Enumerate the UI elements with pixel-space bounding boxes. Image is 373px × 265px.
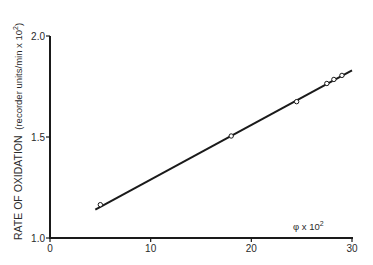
chart: 1.01.52.00102030 RATE OF OXIDATION (reco… (0, 0, 373, 265)
y-axis-title: RATE OF OXIDATION (recorder units/min x … (12, 23, 24, 240)
data-point-marker (340, 73, 344, 77)
x-tick-label: 30 (346, 243, 358, 254)
x-tick-label: 0 (47, 243, 53, 254)
fit-line (95, 70, 352, 209)
data-point-marker (229, 134, 233, 138)
data-points (98, 73, 344, 207)
x-tick-label: 10 (145, 243, 157, 254)
data-point-marker (294, 99, 298, 103)
x-tick-label: 20 (246, 243, 258, 254)
data-point-marker (332, 77, 336, 81)
data-point-marker (98, 202, 102, 206)
y-tick-label: 2.0 (31, 31, 45, 42)
y-tick-label: 1.0 (31, 233, 45, 244)
data-point-marker (325, 81, 329, 85)
axes (46, 36, 353, 242)
x-axis-title: φ x 102 (293, 220, 324, 232)
regression-line (95, 70, 352, 209)
y-tick-label: 1.5 (31, 132, 45, 143)
